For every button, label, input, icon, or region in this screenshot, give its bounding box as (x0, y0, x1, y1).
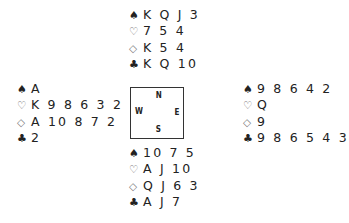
compass-east: E (175, 107, 180, 117)
diamond-icon: ◇ (129, 178, 143, 194)
diamond-icon: ◇ (17, 114, 31, 130)
diamond-icon: ◇ (243, 114, 257, 130)
diamond-icon: ◇ (129, 40, 143, 56)
club-icon: ♣ (17, 131, 31, 147)
heart-icon: ♡ (129, 161, 143, 177)
north-spades: ♠K Q J 3 (129, 7, 200, 23)
west-diamonds: ◇A 10 8 7 2 (17, 114, 123, 130)
east-clubs: ♣9 8 6 5 4 3 (243, 130, 349, 146)
spade-icon: ♠ (129, 146, 143, 162)
west-hearts: ♡K 9 8 6 3 2 (17, 97, 123, 113)
south-hearts: ♡A J 10 (129, 161, 200, 177)
club-icon: ♣ (243, 131, 257, 147)
south-clubs: ♣A J 7 (129, 194, 200, 210)
east-hand: ♠9 8 6 4 2 ♡Q ◇9 ♣9 8 6 5 4 3 (243, 81, 349, 146)
heart-icon: ♡ (129, 23, 143, 39)
south-diamonds: ◇Q J 6 3 (129, 178, 200, 194)
south-spades: ♠10 7 5 (129, 145, 200, 161)
west-hand: ♠A ♡K 9 8 6 3 2 ◇A 10 8 7 2 ♣2 (17, 81, 123, 146)
north-clubs: ♣K Q 10 (129, 56, 200, 72)
north-diamonds: ◇K 5 4 (129, 40, 200, 56)
compass-box: N W E S (130, 87, 184, 139)
compass-north: N (156, 90, 162, 100)
west-clubs: ♣2 (17, 130, 123, 146)
east-hearts: ♡Q (243, 97, 349, 113)
east-spades: ♠9 8 6 4 2 (243, 81, 349, 97)
club-icon: ♣ (129, 195, 143, 211)
north-hand: ♠K Q J 3 ♡7 5 4 ◇K 5 4 ♣K Q 10 (129, 7, 200, 72)
compass-west: W (135, 106, 143, 116)
spade-icon: ♠ (243, 82, 257, 98)
compass-south: S (156, 124, 161, 134)
west-spades: ♠A (17, 81, 123, 97)
north-hearts: ♡7 5 4 (129, 23, 200, 39)
spade-icon: ♠ (129, 8, 143, 24)
heart-icon: ♡ (17, 97, 31, 113)
spade-icon: ♠ (17, 82, 31, 98)
club-icon: ♣ (129, 57, 143, 73)
east-diamonds: ◇9 (243, 114, 349, 130)
heart-icon: ♡ (243, 97, 257, 113)
south-hand: ♠10 7 5 ♡A J 10 ◇Q J 6 3 ♣A J 7 (129, 145, 200, 210)
